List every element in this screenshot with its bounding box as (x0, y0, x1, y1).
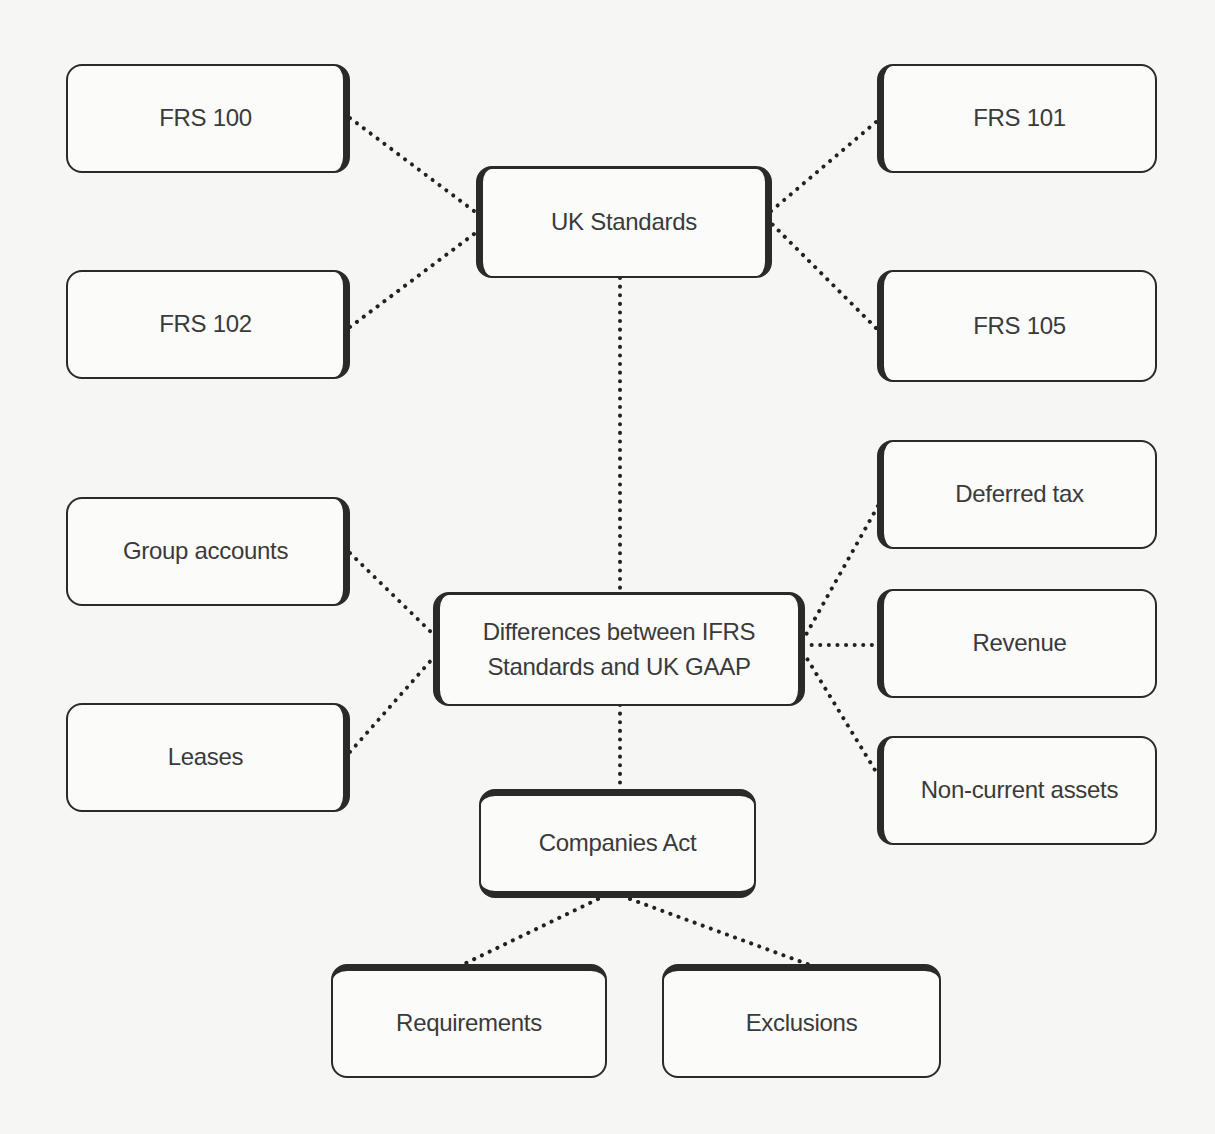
node-deferred-tax-label: Deferred tax (955, 477, 1083, 512)
edge-uk-standards-frs102 (350, 231, 478, 327)
edge-differences-group-accounts (350, 553, 434, 635)
node-deferred-tax[interactable]: Deferred tax (877, 440, 1157, 549)
node-frs-102[interactable]: FRS 102 (66, 270, 350, 379)
node-requirements-label: Requirements (396, 1006, 542, 1041)
node-companies-act-label: Companies Act (539, 826, 697, 861)
node-frs-105[interactable]: FRS 105 (877, 270, 1157, 382)
edge-uk-standards-frs101 (770, 122, 876, 212)
node-non-current-assets-label: Non-current assets (921, 773, 1118, 808)
node-exclusions-label: Exclusions (746, 1006, 858, 1041)
node-leases[interactable]: Leases (66, 703, 350, 812)
edge-uk-standards-frs105 (770, 222, 876, 328)
edge-differences-leases (350, 657, 434, 752)
mind-map-diagram: FRS 100 FRS 102 Group accounts Leases UK… (0, 0, 1215, 1134)
node-leases-label: Leases (168, 740, 244, 775)
edge-differences-non-current-assets (803, 652, 878, 775)
node-differences-center[interactable]: Differences between IFRS Standards and U… (433, 592, 805, 706)
node-frs-100[interactable]: FRS 100 (66, 64, 350, 173)
edge-uk-standards-frs100 (350, 118, 478, 214)
node-exclusions[interactable]: Exclusions (662, 964, 941, 1078)
node-differences-label: Differences between IFRS Standards and U… (483, 615, 756, 685)
edge-companies-act-exclusions (630, 899, 810, 965)
node-non-current-assets[interactable]: Non-current assets (877, 736, 1157, 845)
node-frs-102-label: FRS 102 (159, 307, 252, 342)
node-revenue-label: Revenue (973, 626, 1067, 661)
node-companies-act[interactable]: Companies Act (479, 789, 756, 898)
edge-companies-act-requirements (462, 899, 598, 965)
node-uk-standards[interactable]: UK Standards (476, 166, 772, 278)
node-frs-101[interactable]: FRS 101 (877, 64, 1157, 173)
node-uk-standards-label: UK Standards (551, 205, 697, 240)
node-frs-101-label: FRS 101 (973, 101, 1066, 136)
node-group-accounts-label: Group accounts (123, 534, 288, 569)
node-frs-105-label: FRS 105 (973, 309, 1066, 344)
edge-differences-deferred-tax (803, 506, 878, 640)
node-requirements[interactable]: Requirements (331, 964, 607, 1078)
node-frs-100-label: FRS 100 (159, 101, 252, 136)
node-group-accounts[interactable]: Group accounts (66, 497, 350, 606)
node-revenue[interactable]: Revenue (877, 589, 1157, 698)
